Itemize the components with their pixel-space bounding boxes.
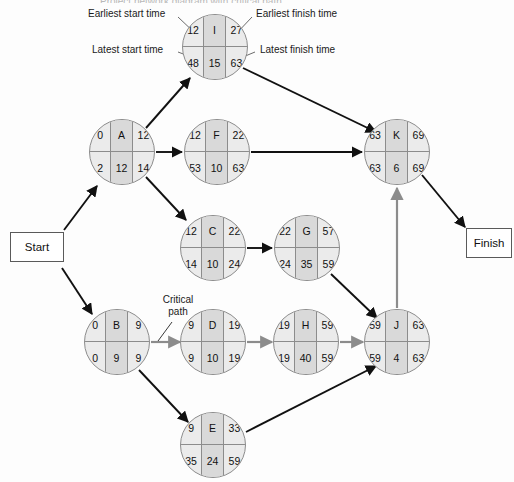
- activity-node-k[interactable]: 63 K 69 63 6 69: [364, 119, 430, 185]
- node-b-earliest-start: 0: [85, 310, 106, 342]
- node-j-activity: J: [386, 310, 408, 342]
- node-f-latest-finish: 63: [228, 152, 249, 184]
- label-earliest-start-time: Earliest start time: [88, 8, 165, 20]
- node-k-duration: 6: [386, 152, 408, 184]
- node-k-activity: K: [386, 120, 408, 152]
- node-e-earliest-start: 9: [181, 413, 202, 445]
- node-b-earliest-finish: 9: [128, 310, 149, 342]
- node-g-duration: 35: [296, 248, 318, 280]
- node-c-latest-start: 14: [181, 248, 202, 280]
- node-e-latest-start: 35: [181, 445, 202, 477]
- node-i-latest-start: 48: [183, 47, 204, 79]
- label-earliest-finish-time: Earliest finish time: [256, 8, 337, 20]
- node-k-earliest-finish: 69: [408, 120, 429, 152]
- node-g-earliest-finish: 57: [318, 216, 339, 248]
- activity-node-a[interactable]: 0 A 12 2 12 14: [89, 119, 155, 185]
- node-c-latest-finish: 24: [224, 248, 245, 280]
- node-g-latest-finish: 59: [318, 248, 339, 280]
- node-c-activity: C: [202, 216, 224, 248]
- node-a-earliest-finish: 12: [133, 120, 154, 152]
- activity-node-e[interactable]: 9 E 33 35 24 59: [180, 412, 246, 478]
- node-j-duration: 4: [386, 342, 408, 374]
- node-i-earliest-start: 12: [183, 15, 204, 47]
- node-i-earliest-finish: 27: [226, 15, 247, 47]
- node-h-earliest-finish: 59: [317, 310, 338, 342]
- node-i-latest-finish: 63: [226, 47, 247, 79]
- node-b-activity: B: [106, 310, 128, 342]
- node-d-activity: D: [202, 310, 224, 342]
- node-d-latest-finish: 19: [224, 342, 245, 374]
- node-c-duration: 10: [202, 248, 224, 280]
- node-g-latest-start: 24: [275, 248, 296, 280]
- node-k-latest-start: 63: [365, 152, 386, 184]
- node-e-duration: 24: [202, 445, 224, 477]
- node-j-latest-finish: 63: [408, 342, 429, 374]
- node-f-earliest-start: 12: [185, 120, 206, 152]
- node-e-latest-finish: 59: [224, 445, 245, 477]
- node-f-latest-start: 53: [185, 152, 206, 184]
- node-f-activity: F: [206, 120, 228, 152]
- node-e-earliest-finish: 33: [224, 413, 245, 445]
- activity-node-j[interactable]: 59 J 63 59 4 63: [364, 309, 430, 375]
- activity-node-h[interactable]: 19 H 59 19 40 59: [273, 309, 339, 375]
- node-a-earliest-start: 0: [90, 120, 111, 152]
- node-k-latest-finish: 69: [408, 152, 429, 184]
- node-h-latest-start: 19: [274, 342, 295, 374]
- node-h-activity: H: [295, 310, 317, 342]
- activity-node-d[interactable]: 9 D 19 9 10 19: [180, 309, 246, 375]
- node-h-earliest-start: 19: [274, 310, 295, 342]
- node-i-duration: 15: [204, 47, 226, 79]
- node-b-latest-start: 0: [85, 342, 106, 374]
- network-diagram-page: Project network diagram with critical pa…: [0, 0, 514, 482]
- node-f-duration: 10: [206, 152, 228, 184]
- cut-off-caption: Project network diagram with critical pa…: [100, 0, 300, 3]
- activity-node-f[interactable]: 12 F 22 53 10 63: [184, 119, 250, 185]
- label-latest-finish-time: Latest finish time: [260, 44, 335, 56]
- node-f-earliest-finish: 22: [228, 120, 249, 152]
- activity-node-g[interactable]: 22 G 57 24 35 59: [274, 215, 340, 281]
- node-a-duration: 12: [111, 152, 133, 184]
- node-j-earliest-finish: 63: [408, 310, 429, 342]
- node-d-earliest-start: 9: [181, 310, 202, 342]
- node-a-latest-start: 2: [90, 152, 111, 184]
- node-i-activity: I: [204, 15, 226, 47]
- activity-node-i[interactable]: 12 I 27 48 15 63: [182, 14, 248, 80]
- node-d-duration: 10: [202, 342, 224, 374]
- node-d-earliest-finish: 19: [224, 310, 245, 342]
- activity-node-b[interactable]: 0 B 9 0 9 9: [84, 309, 150, 375]
- node-c-earliest-finish: 22: [224, 216, 245, 248]
- node-a-latest-finish: 14: [133, 152, 154, 184]
- node-h-duration: 40: [295, 342, 317, 374]
- node-g-earliest-start: 22: [275, 216, 296, 248]
- node-d-latest-start: 9: [181, 342, 202, 374]
- node-c-earliest-start: 12: [181, 216, 202, 248]
- label-latest-start-time: Latest start time: [92, 44, 163, 56]
- node-h-latest-finish: 59: [317, 342, 338, 374]
- node-a-activity: A: [111, 120, 133, 152]
- node-b-duration: 9: [106, 342, 128, 374]
- start-node[interactable]: Start: [10, 232, 64, 262]
- label-critical-path-line1: Critical: [152, 294, 204, 306]
- finish-node[interactable]: Finish: [466, 228, 512, 258]
- node-j-earliest-start: 59: [365, 310, 386, 342]
- node-j-latest-start: 59: [365, 342, 386, 374]
- node-b-latest-finish: 9: [128, 342, 149, 374]
- node-e-activity: E: [202, 413, 224, 445]
- node-k-earliest-start: 63: [365, 120, 386, 152]
- node-g-activity: G: [296, 216, 318, 248]
- node-layer: Project network diagram with critical pa…: [0, 0, 514, 482]
- activity-node-c[interactable]: 12 C 22 14 10 24: [180, 215, 246, 281]
